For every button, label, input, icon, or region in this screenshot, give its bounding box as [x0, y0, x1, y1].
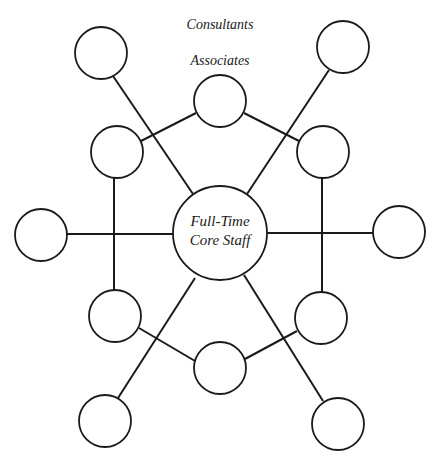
associate-node-upper-right [297, 126, 349, 178]
core-staff-label-line1: Full-Time [190, 212, 251, 231]
consultant-node-bottom-left [79, 395, 131, 447]
edge-associate-top-upper-left [141, 113, 196, 141]
associate-node-upper-left [91, 126, 143, 178]
associate-node-bottom [194, 342, 246, 394]
staffing-network-diagram: Consultants Associates Full-Time Core St… [0, 0, 439, 463]
core-staff-label: Full-Time Core Staff [190, 212, 251, 250]
associate-node-lower-right [295, 292, 347, 344]
consultant-node-top-left [75, 27, 127, 79]
consultant-node-top-right [317, 21, 369, 73]
edge-associate-lower-right-bottom [245, 331, 297, 359]
consultant-node-bottom-right [312, 398, 364, 450]
associate-node-top [194, 75, 246, 127]
associate-node-lower-left [89, 290, 141, 342]
consultant-node-right [373, 206, 425, 258]
consultants-label: Consultants [187, 17, 254, 33]
edge-associate-lower-left-bottom [139, 328, 195, 361]
core-staff-label-line2: Core Staff [190, 231, 251, 250]
consultant-node-left [15, 209, 67, 261]
associates-label: Associates [190, 53, 249, 69]
